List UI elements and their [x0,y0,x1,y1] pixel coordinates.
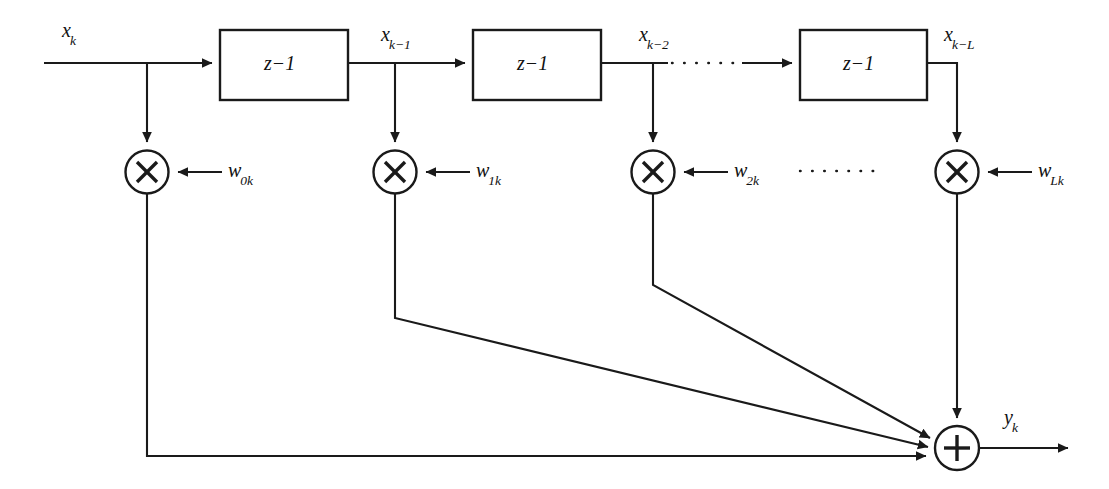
label-tap-xk-2: xk−2 [639,24,670,49]
label-weight-wLk: wLk [1038,160,1065,185]
diagram-wires [0,0,1109,489]
label-weight-w2k: w2k [734,160,760,185]
label-weight-w1k: w1k [476,160,502,185]
label-weight-w0k: w0k [228,160,254,185]
wire-mult2-to-sum [653,194,930,438]
delay-block-2-label: z−1 [517,52,548,75]
delay-block-1-label: z−1 [264,52,295,75]
wire-mult0-to-sum [147,194,926,456]
label-output-yk: yk [1004,407,1019,432]
label-tap-xk-L: xk−L [944,24,976,49]
wire-delay3-to-mult4 [927,63,957,142]
delay-block-3-label: z−1 [843,52,874,75]
wire-mult1-to-sum [395,194,928,447]
block-diagram-canvas: xk xk−1 xk−2 xk−L z−1 z−1 z−1 w0k w1k w2… [0,0,1109,489]
label-input-xk: xk [62,20,77,45]
label-tap-xk-1: xk−1 [381,24,412,49]
